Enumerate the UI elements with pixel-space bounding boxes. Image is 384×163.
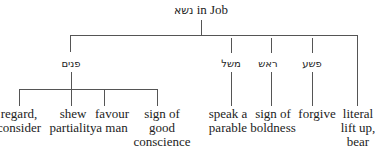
leaf-favour-a-man: favoura man xyxy=(95,107,129,135)
drop-rosh xyxy=(271,38,272,53)
panim-bar xyxy=(19,89,158,90)
leaf-sign-boldness: sign ofboldness xyxy=(250,107,296,135)
drop-mashal xyxy=(231,38,232,53)
drop-pesha xyxy=(312,38,313,53)
title-text: in Job xyxy=(193,2,228,17)
top-bar xyxy=(70,35,358,36)
title-hebrew: נשא xyxy=(174,4,194,17)
diagram-title: נשא in Job xyxy=(174,3,228,17)
drop-shew xyxy=(71,89,72,106)
node-mashal: משל xyxy=(221,58,241,70)
leaf-speak-parable: speak aparable xyxy=(209,107,248,135)
drop-literal xyxy=(357,35,358,106)
root-stem xyxy=(201,20,202,35)
leaf-regard: regard,consider xyxy=(0,107,41,135)
drop-panim xyxy=(70,35,71,52)
node-rosh: ראש xyxy=(258,58,277,70)
panim-stem xyxy=(71,72,72,89)
leaf-forgive: forgive xyxy=(298,107,335,121)
leaf-literal-lift-up: literallift up,bear xyxy=(341,107,376,149)
mashal-stem xyxy=(231,72,232,106)
drop-sign-good xyxy=(157,89,158,106)
leaf-sign-good-conscience: sign ofgoodconscience xyxy=(133,107,190,149)
drop-regard xyxy=(19,89,20,106)
leaf-shew-partiality: shewpartiality xyxy=(50,107,97,135)
node-pesha: פשע xyxy=(302,58,322,70)
node-panim: פנים xyxy=(61,58,80,70)
pesha-stem xyxy=(312,72,313,106)
drop-favour xyxy=(104,89,105,106)
rosh-stem xyxy=(271,72,272,106)
